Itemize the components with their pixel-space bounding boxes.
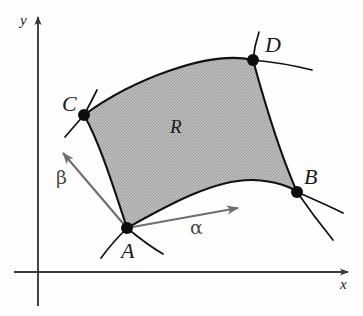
region-fill (84, 58, 297, 228)
alpha-vector-label: α (190, 218, 203, 237)
point-dot-A (121, 222, 133, 234)
point-label-A: A (121, 240, 134, 262)
tangent-d-right (253, 60, 312, 70)
diagram-canvas (0, 0, 363, 316)
point-label-D: D (265, 34, 281, 56)
y-axis-label: y (20, 13, 27, 28)
x-axis-label: x (340, 277, 347, 292)
math-figure: y x R A B C D α β (0, 0, 363, 316)
point-dot-C (78, 109, 90, 121)
point-dot-D (247, 54, 259, 66)
point-label-C: C (62, 93, 77, 115)
point-label-B: B (304, 166, 317, 188)
beta-vector-label: β (56, 168, 67, 187)
point-dot-B (291, 186, 303, 198)
region-label: R (170, 117, 182, 136)
